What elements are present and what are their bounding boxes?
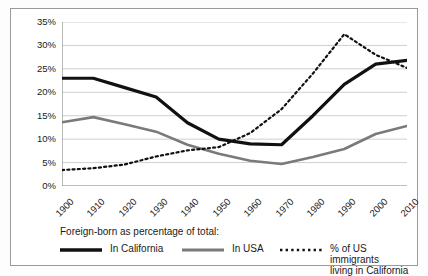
y-tick-label-15: 15% (10, 111, 56, 120)
legend-item-in-california: In California (58, 243, 163, 257)
y-tick-label-25: 25% (10, 64, 56, 73)
legend-swatch-in-california (58, 243, 104, 257)
legend-item-in-usa: In USA (180, 243, 264, 257)
series-line-0 (62, 60, 407, 144)
y-tick-label-20: 20% (10, 87, 56, 96)
plot-svg (62, 22, 407, 186)
series-line-2 (62, 34, 407, 170)
legend-label-in-california: In California (104, 243, 163, 254)
y-tick-label-5: 5% (10, 158, 56, 167)
legend-label-in-usa: In USA (226, 243, 264, 254)
legend-swatch-immigrant-share (278, 243, 324, 257)
legend-label-immigrant-share-line1: % of US immigrants (330, 243, 379, 265)
y-tick-label-0: 0% (10, 181, 56, 190)
legend-swatch-in-usa (180, 243, 226, 257)
y-tick-label-10: 10% (10, 134, 56, 143)
plot-area (62, 22, 407, 186)
x-axis-tick-labels: 1900191019201930194019501960197019801990… (62, 190, 407, 230)
legend-label-immigrant-share-line2: living in California (330, 265, 408, 276)
chart-legend: Foreign-born as percentage of total: In … (10, 226, 418, 266)
y-tick-label-30: 30% (10, 40, 56, 49)
y-tick-label-35: 35% (10, 17, 56, 26)
legend-title: Foreign-born as percentage of total: (60, 226, 219, 237)
y-axis-tick-labels: 0%5%10%15%20%25%30%35% (8, 22, 56, 186)
legend-item-immigrant-share: % of US immigrants living in California (278, 243, 418, 276)
